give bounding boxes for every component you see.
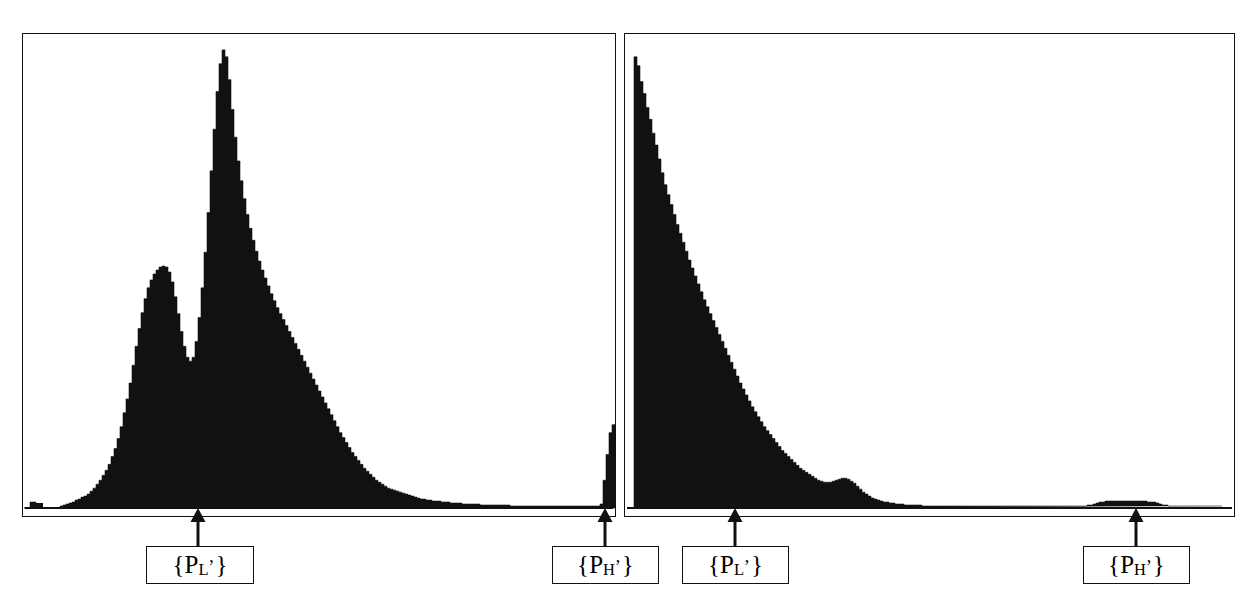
label-prime: ’ (744, 557, 750, 578)
label-subscript: L (734, 560, 744, 580)
label-subscript: H (1134, 560, 1146, 580)
right-plot-silhouette (628, 57, 1222, 508)
label-prime: ’ (1146, 557, 1152, 578)
label-subscript: L (198, 560, 208, 580)
figure-root: {PL’} {PH’} {PL’} {PH’} (0, 0, 1257, 613)
label-prefix: {P (1108, 551, 1134, 579)
label-suffix: } (751, 551, 763, 579)
label-box-right-pl: {PL’} (682, 546, 789, 584)
label-prefix: {P (577, 551, 603, 579)
label-suffix: } (215, 551, 227, 579)
label-prime: ’ (615, 557, 621, 578)
label-prefix: {P (708, 551, 734, 579)
label-box-right-ph: {PH’} (1083, 546, 1190, 584)
right-histogram-plot (0, 0, 1257, 613)
label-prefix: {P (172, 551, 198, 579)
label-prime: ’ (208, 557, 214, 578)
label-suffix: } (1153, 551, 1165, 579)
label-subscript: H (603, 560, 615, 580)
label-box-left-ph: {PH’} (552, 546, 659, 584)
label-box-left-pl: {PL’} (146, 546, 254, 584)
label-suffix: } (622, 551, 634, 579)
